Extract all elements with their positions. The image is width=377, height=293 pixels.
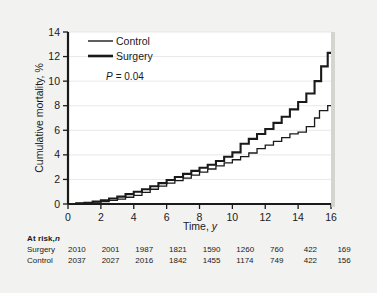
legend-label-control: Control [116,35,150,47]
at-risk-title-bold: At risk, [27,234,55,243]
at-risk-value: 749 [270,255,304,266]
at-risk-title: At risk,n [27,234,371,243]
at-risk-values: 201020011987182115901260760422169 [68,244,371,255]
at-risk-value: 2016 [135,255,169,266]
at-risk-value: 1455 [203,255,237,266]
y-tick-label: 12 [48,50,60,62]
x-axis-label: Time, y [183,220,218,232]
at-risk-row: Surgery201020011987182115901260760422169 [27,244,371,255]
at-risk-value: 760 [270,244,304,255]
figure-container: 02468101214 0246810121416 Cumulative mor… [0,0,377,293]
at-risk-row-label: Control [27,255,68,266]
at-risk-table: At risk,n Surgery20102001198718211590126… [27,234,371,266]
x-tick-label: 14 [292,211,304,223]
x-tick-label: 10 [227,211,239,223]
x-tick-label: 4 [131,211,137,223]
y-axis-label: Cumulative mortality, % [33,63,45,173]
at-risk-title-italic: n [55,234,60,243]
at-risk-row-label: Surgery [27,244,68,255]
y-tick-label: 6 [54,124,60,136]
at-risk-rows: Surgery201020011987182115901260760422169… [27,244,371,266]
x-tick-label: 6 [164,211,170,223]
y-tick-label: 2 [54,173,60,185]
at-risk-value: 422 [304,244,338,255]
plot-background [68,32,331,204]
panel-shadow [331,32,335,207]
y-tick-label: 8 [54,99,60,111]
at-risk-value: 1260 [236,244,270,255]
at-risk-value: 1821 [169,244,203,255]
at-risk-value: 2037 [68,255,102,266]
y-tick-label: 0 [54,198,60,210]
y-axis-ticks: 02468101214 [48,26,68,210]
x-tick-label: 12 [259,211,271,223]
y-tick-label: 10 [48,75,60,87]
at-risk-value: 2001 [102,244,136,255]
at-risk-value: 2010 [68,244,102,255]
at-risk-value: 1174 [236,255,270,266]
at-risk-values: 203720272016184214551174749422156 [68,255,371,266]
at-risk-value: 1987 [135,244,169,255]
x-tick-label: 0 [65,211,71,223]
y-tick-label: 4 [54,148,60,160]
legend-label-surgery: Surgery [116,50,154,62]
at-risk-row: Control203720272016184214551174749422156 [27,255,371,266]
at-risk-value: 1842 [169,255,203,266]
at-risk-value: 1590 [203,244,237,255]
at-risk-value: 2027 [102,255,136,266]
at-risk-value: 422 [304,255,338,266]
at-risk-value: 169 [337,244,371,255]
x-tick-label: 2 [98,211,104,223]
y-tick-label: 14 [48,26,60,38]
p-value-annotation: P= 0.04 [106,71,144,82]
x-tick-label: 16 [325,211,337,223]
at-risk-value: 156 [337,255,371,266]
